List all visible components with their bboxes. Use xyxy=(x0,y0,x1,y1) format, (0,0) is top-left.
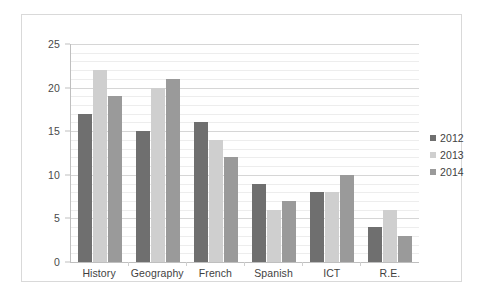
x-axis-tick-label: History xyxy=(70,267,128,279)
chart-frame: 0510152025 HistoryGeographyFrenchSpanish… xyxy=(21,14,462,282)
legend-item-2012[interactable]: 2012 xyxy=(430,129,482,146)
y-axis: 0510152025 xyxy=(22,44,70,263)
bar-2012-re[interactable] xyxy=(368,227,382,262)
x-axis-tick-label: Geography xyxy=(128,267,186,279)
x-axis-tick-mark xyxy=(302,262,303,266)
bar-2012-geography[interactable] xyxy=(136,131,150,262)
legend-swatch-icon xyxy=(430,135,436,141)
bar-group xyxy=(303,44,361,262)
x-axis-tick-mark xyxy=(186,262,187,266)
y-axis-tick-label: 0 xyxy=(54,256,60,268)
legend-swatch-icon xyxy=(430,169,436,175)
bar-2013-french[interactable] xyxy=(209,140,223,262)
bar-2014-re[interactable] xyxy=(398,236,412,262)
bar-2012-history[interactable] xyxy=(78,114,92,262)
bars-layer xyxy=(71,44,419,262)
x-axis-tick-label: ICT xyxy=(303,267,361,279)
y-axis-tick-label: 5 xyxy=(54,212,60,224)
bar-group xyxy=(245,44,303,262)
bar-2014-spanish[interactable] xyxy=(282,201,296,262)
y-axis-tick-label: 10 xyxy=(48,169,60,181)
bar-2014-geography[interactable] xyxy=(166,79,180,262)
bar-2012-spanish[interactable] xyxy=(252,184,266,262)
legend-label: 2013 xyxy=(440,149,464,161)
x-axis-tick-mark xyxy=(360,262,361,266)
bar-2014-ict[interactable] xyxy=(340,175,354,262)
bar-2013-re[interactable] xyxy=(383,210,397,262)
bar-group xyxy=(187,44,245,262)
bar-2012-french[interactable] xyxy=(194,122,208,262)
bar-2013-history[interactable] xyxy=(93,70,107,262)
legend-label: 2012 xyxy=(440,132,464,144)
chart-legend: 201220132014 xyxy=(430,129,482,180)
x-axis-tick-label: R.E. xyxy=(361,267,419,279)
legend-item-2014[interactable]: 2014 xyxy=(430,163,482,180)
legend-label: 2014 xyxy=(440,166,464,178)
x-axis-tick-label: French xyxy=(186,267,244,279)
legend-item-2013[interactable]: 2013 xyxy=(430,146,482,163)
legend-swatch-icon xyxy=(430,152,436,158)
bar-2014-history[interactable] xyxy=(108,96,122,262)
bar-2012-ict[interactable] xyxy=(310,192,324,262)
plot-area xyxy=(70,44,419,263)
bar-2014-french[interactable] xyxy=(224,157,238,262)
y-axis-tick-label: 15 xyxy=(48,125,60,137)
bar-group xyxy=(71,44,129,262)
bar-2013-ict[interactable] xyxy=(325,192,339,262)
y-axis-tick-label: 25 xyxy=(48,38,60,50)
bar-group xyxy=(129,44,187,262)
bar-2013-spanish[interactable] xyxy=(267,210,281,262)
y-axis-tick-label: 20 xyxy=(48,82,60,94)
x-axis-tick-mark xyxy=(244,262,245,266)
x-axis-tick-label: Spanish xyxy=(245,267,303,279)
bar-2013-geography[interactable] xyxy=(151,88,165,262)
x-axis: HistoryGeographyFrenchSpanishICTR.E. xyxy=(70,267,419,279)
x-axis-tick-mark xyxy=(128,262,129,266)
bar-group xyxy=(361,44,419,262)
